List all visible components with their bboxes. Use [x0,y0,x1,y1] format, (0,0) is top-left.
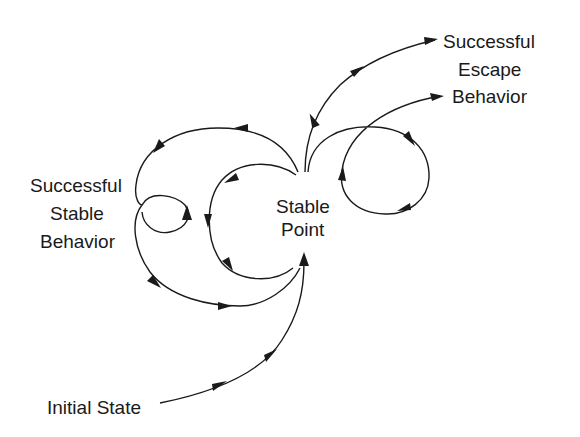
escape-label-line-3: Behavior [452,83,527,111]
arrow-icon [397,203,411,211]
arrow-icon [234,124,248,132]
stable-behavior-label-line-2: Stable [50,200,104,228]
stable-point-label-line-2: Point [281,216,324,244]
escape-label-line-1: Successful [443,28,535,56]
arrow-icon [153,139,165,153]
small-stable-loop-trajectory [142,196,192,233]
direct-escape-trajectory [305,37,438,172]
escape-label-line-2: Escape [458,56,521,84]
arrow-icon [424,37,438,45]
arrow-icon [299,252,309,266]
arrow-icon [182,205,192,220]
initial-to-stable-point-trajectory [160,252,309,403]
arrow-icon [430,93,444,101]
arrow-icon [264,349,277,362]
diagram-canvas: Successful Escape Behavior Successful St… [0,0,580,437]
stable-behavior-label-line-3: Behavior [40,228,115,256]
arrow-icon [212,381,227,391]
stable-behavior-label-line-1: Successful [30,172,122,200]
arrow-icon [218,302,232,310]
arrow-icon [403,131,415,146]
initial-state-label: Initial State [47,394,141,422]
arrow-icon [204,214,212,228]
arrow-icon [224,173,239,183]
